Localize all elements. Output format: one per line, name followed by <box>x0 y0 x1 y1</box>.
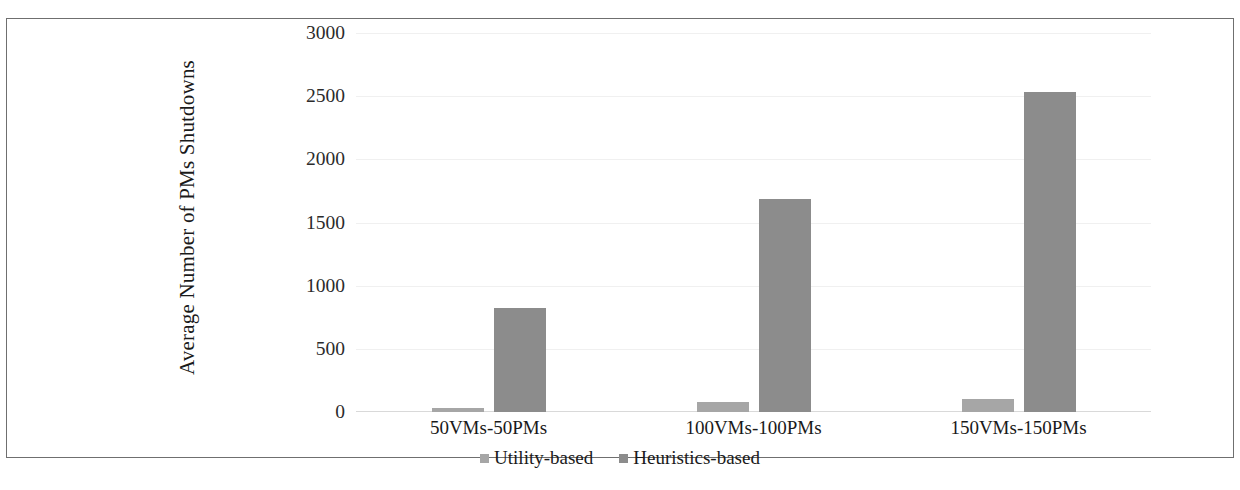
bar-heuristics-based-100VMs-100PMs <box>759 199 811 413</box>
bar-heuristics-based-150VMs-150PMs <box>1024 92 1076 412</box>
chart-figure: Average Number of PMs Shutdowns 05001000… <box>0 0 1240 490</box>
y-axis-tick-500: 500 <box>283 339 345 359</box>
chart-legend: Utility-basedHeuristics-based <box>0 447 1240 469</box>
y-axis-title: Average Number of PMs Shutdowns <box>175 18 200 418</box>
legend-label: Utility-based <box>494 447 593 469</box>
bar-heuristics-based-50VMs-50PMs <box>494 308 546 412</box>
legend-label: Heuristics-based <box>633 447 760 469</box>
y-axis-tick-1500: 1500 <box>283 213 345 233</box>
bar-utility-based-50VMs-50PMs <box>432 408 484 412</box>
x-axis-tick-150VMs-150PMs: 150VMs-150PMs <box>886 417 1151 439</box>
bar-group-100VMs-100PMs <box>621 33 886 412</box>
x-axis-tick-labels: 50VMs-50PMs100VMs-100PMs150VMs-150PMs <box>356 417 1151 443</box>
figure-caption <box>0 470 1240 488</box>
x-axis-tick-50VMs-50PMs: 50VMs-50PMs <box>356 417 621 439</box>
legend-swatch-icon <box>480 454 489 463</box>
legend-item-utility-based: Utility-based <box>480 447 593 469</box>
bar-group-50VMs-50PMs <box>356 33 621 412</box>
y-axis-tick-3000: 3000 <box>283 23 345 43</box>
y-axis-tick-2000: 2000 <box>283 149 345 169</box>
y-axis-tick-1000: 1000 <box>283 276 345 296</box>
y-axis-tick-0: 0 <box>283 402 345 422</box>
y-axis-tick-labels: 050010001500200025003000 <box>283 0 345 490</box>
x-axis-tick-100VMs-100PMs: 100VMs-100PMs <box>621 417 886 439</box>
bar-group-150VMs-150PMs <box>886 33 1151 412</box>
bar-utility-based-150VMs-150PMs <box>962 399 1014 412</box>
bar-utility-based-100VMs-100PMs <box>697 402 749 412</box>
legend-swatch-icon <box>619 454 628 463</box>
y-axis-tick-2500: 2500 <box>283 86 345 106</box>
plot-area <box>356 33 1151 412</box>
legend-item-heuristics-based: Heuristics-based <box>619 447 760 469</box>
